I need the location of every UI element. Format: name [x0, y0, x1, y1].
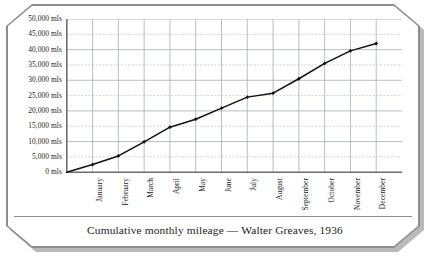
x-axis-tick-label: April: [173, 178, 180, 194]
y-axis-tick-label: 35,000 mls: [28, 61, 62, 68]
x-axis-tick-label: October: [328, 178, 335, 203]
y-axis-tick-label: 10,000 mls: [28, 138, 62, 145]
x-axis-tick-label: December: [379, 178, 386, 209]
y-axis-tick-label: 45,000 mls: [28, 31, 62, 38]
y-axis-tick-label: 50,000 mls: [28, 15, 62, 22]
x-axis-tick-label: January: [96, 178, 103, 202]
y-axis-tick-label: 15,000 mls: [28, 123, 62, 130]
data-point-marker: [374, 42, 378, 46]
x-axis-tick-label: November: [354, 178, 361, 210]
x-axis-tick-label: March: [147, 178, 154, 198]
chart-figure: 50,000 mls45,000 mls40,000 mls35,000 mls…: [0, 0, 430, 257]
y-axis-tick-labels: 50,000 mls45,000 mls40,000 mls35,000 mls…: [6, 0, 62, 257]
x-axis-tick-label: September: [302, 178, 309, 211]
chart-caption: Cumulative monthly mileage — Walter Grea…: [0, 224, 430, 236]
y-axis-tick-label: 5,000 mls: [32, 153, 62, 160]
grid-lines: [67, 19, 402, 172]
line-chart-svg: [66, 19, 402, 173]
x-axis-tick-label: July: [250, 178, 257, 191]
caption-divider: [14, 216, 412, 217]
plot-area: [66, 19, 402, 173]
y-axis-tick-label: 30,000 mls: [28, 77, 62, 84]
y-axis-tick-label: 25,000 mls: [28, 92, 62, 99]
data-point-marker: [91, 163, 95, 167]
x-axis-tick-label: February: [122, 178, 129, 205]
y-axis-tick-label: 0 mls: [45, 168, 62, 175]
x-axis-tick-label: May: [199, 178, 206, 192]
y-axis-tick-label: 20,000 mls: [28, 107, 62, 114]
x-axis-tick-label: August: [276, 178, 283, 200]
x-axis-tick-label: June: [225, 178, 232, 192]
y-axis-tick-label: 40,000 mls: [28, 46, 62, 53]
